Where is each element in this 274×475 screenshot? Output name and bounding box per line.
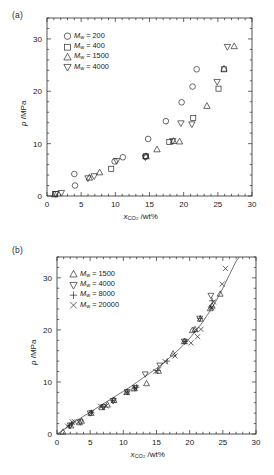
data-marker-triangle-down <box>64 65 71 72</box>
data-marker-circle <box>190 84 196 90</box>
legend-marker-triangle-down-icon <box>61 62 74 72</box>
data-marker-square <box>216 86 221 91</box>
figure-container: (a) 0510152025300102030 xCO2 /wt% p /MPa… <box>0 0 274 475</box>
data-marker-triangle-up <box>144 380 150 385</box>
legend-row: Mw = 400 <box>61 41 109 51</box>
legend-marker-circle-icon <box>61 31 74 41</box>
x-tick-label: 25 <box>213 200 222 209</box>
x-tick-label: 10 <box>111 200 120 209</box>
panel-b-yaxis-label: p /MPa <box>29 339 38 364</box>
y-tick-label: 0 <box>48 430 53 439</box>
panel-a-yaxis-label: p /MPa <box>19 101 28 126</box>
series-square <box>53 67 227 197</box>
data-marker-circle <box>163 118 169 124</box>
legend-row: Mw = 20000 <box>67 300 119 310</box>
data-marker-square <box>191 115 196 120</box>
data-marker-triangle-up <box>176 138 182 144</box>
series-triangle-down <box>67 293 214 428</box>
series-plus <box>67 298 216 429</box>
data-marker-circle <box>120 154 126 160</box>
x-tick-label: 20 <box>185 438 194 447</box>
data-marker-triangle-up <box>70 271 77 278</box>
panel-a: (a) 0510152025300102030 xCO2 /wt% p /MPa… <box>0 0 274 237</box>
panel-a-xaxis-label: xCO2 /wt% <box>124 212 158 221</box>
legend-label: Mw = 20000 <box>80 300 119 311</box>
data-marker-cross <box>70 302 76 308</box>
x-tick-label: 15 <box>152 438 161 447</box>
legend-marker-triangle-down-icon <box>67 280 80 290</box>
legend-row: Mw = 1500 <box>67 269 119 279</box>
y-tick-label: 20 <box>43 326 52 335</box>
x-tick-label: 15 <box>145 200 154 209</box>
legend-row: Mw = 4000 <box>67 279 119 289</box>
data-marker-triangle-down <box>178 121 184 127</box>
data-marker-circle <box>72 183 78 189</box>
data-marker-triangle-down <box>189 122 195 128</box>
y-tick-label: 10 <box>33 140 42 149</box>
y-tick-label: 20 <box>33 87 42 96</box>
data-marker-triangle-down <box>224 44 230 50</box>
data-marker-cross <box>220 281 225 286</box>
data-marker-square <box>109 166 114 171</box>
series-triangle-up <box>60 291 223 434</box>
data-marker-triangle-up <box>154 146 160 152</box>
legend-row: Mw = 200 <box>61 31 109 41</box>
x-tick-label: 0 <box>45 200 50 209</box>
y-tick-label: 30 <box>43 274 52 283</box>
series-circle <box>72 66 200 188</box>
panel-b-legend: Mw = 1500Mw = 4000Mw = 8000Mw = 20000 <box>67 269 119 311</box>
data-marker-cross <box>195 334 200 339</box>
panel-a-plot: 0510152025300102030 <box>0 0 274 237</box>
legend-marker-plus-icon <box>67 290 80 300</box>
panel-b: (b) 0510152025300102030 xCO2 /wt% p /MPa… <box>0 237 274 475</box>
data-marker-triangle-down <box>70 282 77 289</box>
x-tick-label: 20 <box>179 200 188 209</box>
legend-marker-cross-icon <box>67 300 80 310</box>
data-marker-circle <box>72 171 78 177</box>
data-marker-triangle-down <box>208 293 214 298</box>
panel-b-plot: 0510152025300102030 <box>0 237 274 475</box>
data-marker-circle <box>194 66 200 72</box>
x-tick-label: 0 <box>55 438 60 447</box>
data-marker-cross <box>188 340 193 345</box>
x-tick-label: 5 <box>79 200 84 209</box>
x-tick-label: 30 <box>252 438 261 447</box>
data-marker-triangle-up <box>170 351 176 356</box>
legend-marker-square-icon <box>61 42 74 52</box>
data-marker-cross <box>198 327 203 332</box>
x-tick-label: 30 <box>248 200 257 209</box>
y-tick-label: 30 <box>33 35 42 44</box>
data-marker-triangle-up <box>64 53 71 60</box>
legend-marker-triangle-up-icon <box>67 269 80 279</box>
data-marker-plus <box>70 291 77 298</box>
x-tick-label: 25 <box>218 438 227 447</box>
data-marker-circle <box>145 136 151 142</box>
data-marker-circle <box>179 99 185 105</box>
legend-marker-triangle-up-icon <box>61 52 74 62</box>
legend-label: Mw = 4000 <box>74 62 109 73</box>
data-marker-triangle-down <box>214 79 220 85</box>
panel-b-xaxis-label: xCO2 /wt% <box>131 450 165 459</box>
y-tick-label: 0 <box>38 192 43 201</box>
data-marker-circle <box>64 33 70 39</box>
data-marker-triangle-up <box>231 43 237 49</box>
data-marker-square <box>65 44 71 50</box>
legend-row: Mw = 8000 <box>67 290 119 300</box>
legend-row: Mw = 1500 <box>61 52 109 62</box>
y-tick-label: 10 <box>43 378 52 387</box>
data-marker-cross <box>223 266 228 271</box>
data-marker-triangle-up <box>204 103 210 109</box>
x-tick-label: 10 <box>119 438 128 447</box>
legend-row: Mw = 4000 <box>61 62 109 72</box>
panel-a-legend: Mw = 200Mw = 400Mw = 1500Mw = 4000 <box>61 31 109 73</box>
x-tick-label: 5 <box>88 438 93 447</box>
